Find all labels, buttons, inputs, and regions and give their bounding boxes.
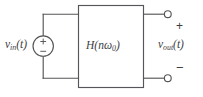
output-terminal-top-node — [164, 11, 171, 18]
output-voltage-label-subscript: out — [163, 43, 173, 52]
output-polarity-plus: + — [176, 20, 183, 32]
transfer-function-label: H(nω0) — [86, 40, 120, 53]
output-terminal-bottom-node — [164, 75, 171, 82]
transfer-function-label-close-paren: ) — [116, 39, 120, 51]
transfer-function-label-omega: ω — [104, 39, 112, 51]
output-voltage-label-suffix: (t) — [173, 38, 184, 50]
circuit-diagram-canvas: vin(t) H(nω0) vout(t) + − — [0, 0, 203, 97]
input-voltage-label: vin(t) — [5, 39, 27, 52]
output-polarity-minus: − — [176, 61, 184, 74]
output-voltage-label: vout(t) — [158, 39, 184, 52]
input-voltage-label-suffix: (t) — [16, 38, 27, 50]
